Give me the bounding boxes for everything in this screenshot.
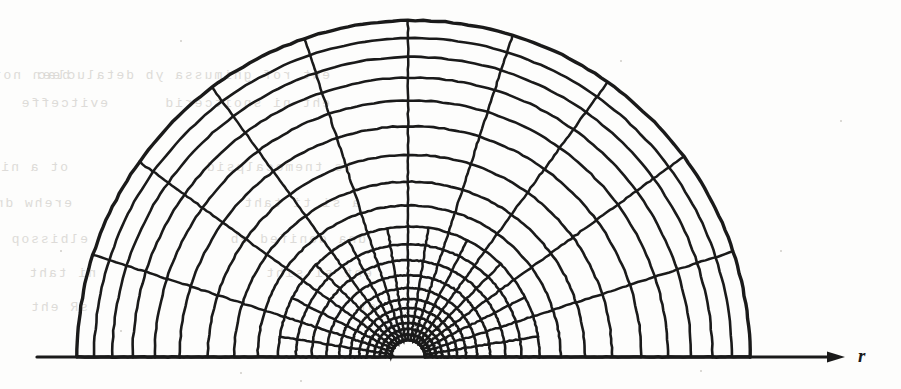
mesh-radial-spoke [273,171,331,252]
mesh-radial-spoke [408,299,409,340]
mesh-radial-spoke [337,138,368,232]
mesh-radial-spoke [408,127,409,227]
mesh-radial-spoke [223,223,303,281]
mesh-radial-spoke [514,220,597,280]
mesh-radial-spoke [140,161,224,222]
mesh-radial-spoke [533,285,630,316]
mesh-radial-spoke [485,169,544,250]
mesh-radial-spoke [212,87,273,171]
mesh-radial-spoke [597,157,684,220]
mesh-radial-spoke [408,20,409,126]
mesh-radial-spoke [449,137,480,233]
right-arrow-icon [827,352,845,363]
figure-page: been not pne noitegaporp llaweht rof gni… [0,0,901,389]
mesh-radial-spoke [545,82,607,169]
polar-mesh-figure [0,0,901,389]
mesh-radial-spoke [408,227,409,299]
mesh-radial-spoke [191,287,285,317]
axis-label-r: r [858,345,865,367]
